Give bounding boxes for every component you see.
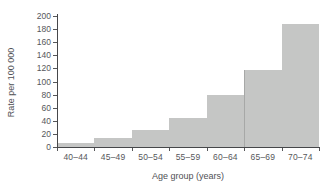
y-tick-160 <box>53 42 57 43</box>
y-tick-label-160: 160 <box>27 37 51 47</box>
y-tick-180 <box>53 29 57 30</box>
y-tick-label-60: 60 <box>27 103 51 113</box>
y-tick-label-100: 100 <box>27 77 51 87</box>
y-tick-20 <box>53 134 57 135</box>
bar-65-69 <box>244 70 281 147</box>
bar-55-59 <box>169 118 206 147</box>
y-tick-label-120: 120 <box>27 63 51 73</box>
y-tick-40 <box>53 121 57 122</box>
bar-60-64 <box>207 95 244 147</box>
y-tick-label-40: 40 <box>27 116 51 126</box>
y-tick-label-200: 200 <box>27 11 51 21</box>
y-tick-100 <box>53 82 57 83</box>
bar-50-54 <box>132 130 169 147</box>
y-tick-label-180: 180 <box>27 24 51 34</box>
x-tick-4 <box>207 148 208 151</box>
y-axis-line <box>57 14 58 148</box>
y-tick-200 <box>53 16 57 17</box>
x-tick-7 <box>319 148 320 151</box>
x-axis-title: Age group (years) <box>128 171 248 182</box>
x-tick-0 <box>57 148 58 151</box>
x-tick-label-65-69: 65–69 <box>244 152 281 162</box>
y-tick-60 <box>53 108 57 109</box>
y-tick-label-80: 80 <box>27 90 51 100</box>
bar-70-74 <box>282 24 319 147</box>
x-axis-line <box>53 147 320 148</box>
x-tick-label-45-49: 45–49 <box>94 152 131 162</box>
x-tick-1 <box>94 148 95 151</box>
x-tick-label-55-59: 55–59 <box>169 152 206 162</box>
x-tick-label-50-54: 50–54 <box>132 152 169 162</box>
bar-seam-line <box>244 70 245 147</box>
x-tick-label-40-44: 40–44 <box>57 152 94 162</box>
bar-45-49 <box>94 138 131 147</box>
x-tick-5 <box>244 148 245 151</box>
x-tick-label-60-64: 60–64 <box>207 152 244 162</box>
y-tick-label-0: 0 <box>27 142 51 152</box>
x-tick-3 <box>169 148 170 151</box>
x-tick-2 <box>132 148 133 151</box>
y-tick-label-140: 140 <box>27 50 51 60</box>
y-tick-140 <box>53 55 57 56</box>
x-tick-label-70-74: 70–74 <box>282 152 319 162</box>
y-tick-120 <box>53 68 57 69</box>
age-rate-histogram-figure: Rate per 100 000 02040608010012014016018… <box>0 0 331 193</box>
plot-area: 02040608010012014016018020040–4445–4950–… <box>0 0 331 193</box>
y-tick-80 <box>53 95 57 96</box>
y-tick-label-20: 20 <box>27 129 51 139</box>
x-tick-6 <box>282 148 283 151</box>
